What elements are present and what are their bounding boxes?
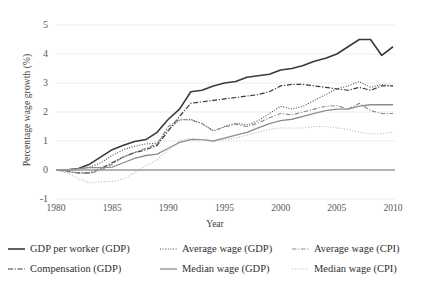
legend-label: GDP per worker (GDP)	[30, 243, 130, 255]
legend-line-swatch-icon	[8, 265, 25, 273]
legend-label: Average wage (GDP)	[182, 243, 272, 255]
legend-line-swatch-icon	[292, 245, 309, 253]
legend-label: Median wage (CPI)	[314, 263, 397, 275]
chart-figure: Percentage wage growth (%) 543210-1 1980…	[0, 0, 430, 281]
series-line	[56, 105, 393, 170]
legend-label: Compensation (GDP)	[30, 263, 121, 275]
legend-line-swatch-icon	[160, 265, 177, 273]
legend-item[interactable]: Median wage (CPI)	[292, 263, 422, 275]
legend-label: Average wage (CPI)	[314, 243, 400, 255]
legend-item[interactable]: Average wage (GDP)	[160, 243, 292, 255]
legend-item[interactable]: Average wage (CPI)	[292, 243, 422, 255]
legend-label: Median wage (GDP)	[182, 263, 269, 275]
legend-item[interactable]: Median wage (GDP)	[160, 263, 292, 275]
legend-line-swatch-icon	[292, 265, 309, 273]
series-line	[56, 82, 393, 170]
legend-line-swatch-icon	[160, 245, 177, 253]
legend-line-swatch-icon	[8, 245, 25, 253]
series-line	[56, 40, 393, 171]
series-line	[56, 127, 393, 184]
chart-legend: GDP per worker (GDP)Average wage (GDP)Av…	[8, 239, 422, 279]
legend-item[interactable]: Compensation (GDP)	[8, 263, 160, 275]
legend-item[interactable]: GDP per worker (GDP)	[8, 243, 160, 255]
